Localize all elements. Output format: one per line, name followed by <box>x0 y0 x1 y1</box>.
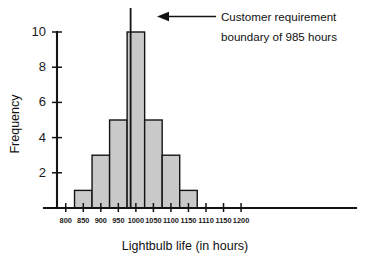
x-tick-label: 1150 <box>180 216 196 225</box>
annotation-line-2: boundary of 985 hours <box>221 30 337 43</box>
x-tick-label: 1110 <box>198 216 214 225</box>
bar-series <box>75 32 198 208</box>
x-tick-label: 900 <box>95 216 107 225</box>
annotation-arrow <box>157 12 216 21</box>
histogram-bar <box>110 120 128 208</box>
histogram-bar <box>145 120 163 208</box>
histogram-bar <box>162 155 180 208</box>
x-tick-label: 950 <box>112 216 124 225</box>
y-tick-label: 10 <box>32 24 46 39</box>
y-tick-label: 8 <box>39 59 46 74</box>
x-axis-title: Lightbulb life (in hours) <box>122 239 248 253</box>
chart-canvas: 246810 800850900950100010501100115011101… <box>0 0 368 261</box>
y-axis-title: Frequency <box>8 94 22 154</box>
histogram-figure: 246810 800850900950100010501100115011101… <box>0 0 368 261</box>
histogram-bar <box>92 155 110 208</box>
x-tick-label: 1200 <box>233 216 249 225</box>
x-tick-label: 1050 <box>145 216 161 225</box>
x-tick-label: 850 <box>77 216 89 225</box>
arrow-head-icon <box>157 12 169 21</box>
x-tick-label: 800 <box>60 216 72 225</box>
y-tick-label: 6 <box>39 94 46 109</box>
annotation-line-1: Customer requirement <box>221 10 337 23</box>
x-tick-label: 1000 <box>128 216 144 225</box>
x-tick-label: 1150 <box>216 216 232 225</box>
x-tick-label: 1100 <box>163 216 179 225</box>
y-tick-label: 2 <box>39 165 46 180</box>
y-tick-label: 4 <box>39 130 46 145</box>
